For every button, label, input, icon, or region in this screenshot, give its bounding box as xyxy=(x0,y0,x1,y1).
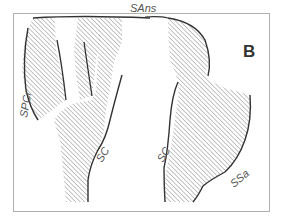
label-ssa: SSa xyxy=(228,167,252,190)
label-spcr: SPCr xyxy=(17,89,34,118)
label-sans: SAns xyxy=(130,2,157,14)
panel-label: B xyxy=(243,42,255,61)
diagram-canvas: SAns B SPCr SC SC SSa xyxy=(0,0,283,222)
diagram-panel-b: SAns B SPCr SC SC SSa xyxy=(0,0,283,222)
